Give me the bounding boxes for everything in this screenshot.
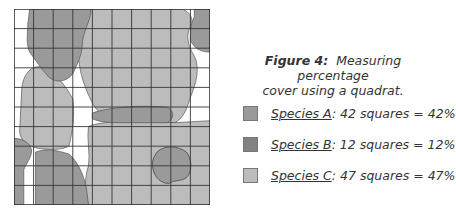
figure-label: Figure 4:: [265, 53, 328, 68]
quadrat-diagram: [14, 9, 210, 205]
species-detail: : 42 squares = 42%: [332, 106, 456, 121]
figure-caption: Figure 4: Measuring percentage cover usi…: [238, 53, 428, 98]
species-b-swatch: [243, 137, 258, 152]
species-name: Species B: [271, 137, 332, 152]
species-b-area: [152, 147, 190, 184]
caption-line-2: cover using a quadrat.: [238, 83, 428, 98]
legend-item-species-c: Species C: 47 squares = 47%: [243, 160, 456, 191]
legend-text: Species B: 12 squares = 12%: [271, 137, 455, 152]
legend-text: Species C: 47 squares = 47%: [271, 168, 455, 183]
legend-text: Species A: 42 squares = 42%: [271, 106, 456, 121]
species-name: Species A: [271, 106, 332, 121]
legend-item-species-a: Species A: 42 squares = 42%: [243, 98, 456, 129]
species-detail: : 47 squares = 47%: [332, 168, 456, 183]
quadrat-svg: [14, 9, 210, 205]
species-a-swatch: [243, 106, 258, 121]
species-name: Species C: [271, 168, 332, 183]
legend-item-species-b: Species B: 12 squares = 12%: [243, 129, 456, 160]
species-detail: : 12 squares = 12%: [332, 137, 456, 152]
species-c-swatch: [243, 168, 258, 183]
legend: Species A: 42 squares = 42% Species B: 1…: [243, 98, 456, 191]
